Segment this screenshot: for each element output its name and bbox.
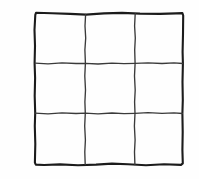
grid-cell-r3c1[interactable] bbox=[36, 113, 85, 164]
grid-cell-r2c3[interactable] bbox=[135, 63, 182, 113]
grid-cell-r1c3[interactable] bbox=[135, 14, 182, 63]
grid-cell-r1c1[interactable] bbox=[36, 14, 85, 63]
grid-cell-r2c2[interactable] bbox=[85, 63, 135, 113]
grid-cell-layer bbox=[36, 14, 182, 164]
grid-cell-r1c2[interactable] bbox=[85, 14, 135, 63]
grid-3x3-diagram bbox=[0, 0, 199, 179]
figure-root: I bbox=[0, 0, 199, 179]
grid-cell-r3c2[interactable] bbox=[85, 113, 135, 164]
grid-cell-r3c3[interactable] bbox=[135, 113, 182, 164]
grid-cell-r2c1[interactable] bbox=[36, 63, 85, 113]
